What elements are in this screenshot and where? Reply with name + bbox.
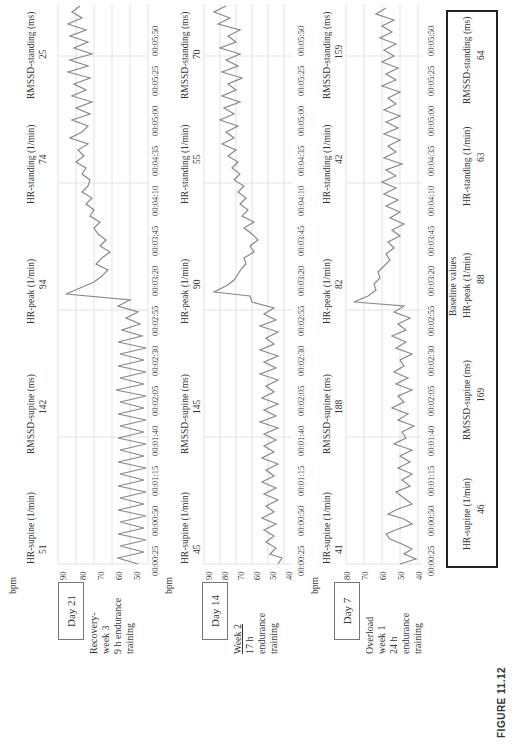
- metric-value: 142: [38, 400, 48, 414]
- x-tick: 00:02:55: [426, 306, 436, 336]
- metric-value: 46: [476, 505, 486, 515]
- y-tick: 70: [236, 572, 246, 581]
- x-tick: 00:00:25: [296, 546, 306, 576]
- x-tick: 00:03:20: [296, 266, 306, 296]
- metric-value: 64: [476, 51, 486, 61]
- y-unit-label: bpm: [8, 577, 18, 594]
- day-label: Day 7: [334, 582, 360, 640]
- y-tick: 70: [360, 572, 370, 581]
- metric-label: RMSSD-standing (ms): [26, 12, 36, 99]
- x-tick: 00:03:20: [426, 266, 436, 296]
- training-description: Week 2 17 h endurance training: [232, 613, 280, 654]
- x-tick: 00:01:15: [296, 466, 306, 496]
- metric-value: 55: [192, 155, 202, 165]
- hr-trace-day7: [346, 4, 422, 564]
- metric-value: 188: [334, 400, 344, 414]
- training-description: Recovery- week 3 9 h endurance training: [88, 598, 136, 654]
- x-tick: 00:00:50: [150, 506, 160, 536]
- x-tick: 00:02:30: [150, 346, 160, 376]
- baseline-title: Baseline values: [448, 257, 458, 316]
- x-tick: 00:01:40: [296, 426, 306, 456]
- metric-label: HR-standing (1/min): [462, 127, 472, 206]
- y-tick: 90: [58, 572, 68, 581]
- x-tick: 00:03:45: [296, 226, 306, 256]
- x-tick: 00:00:50: [426, 506, 436, 536]
- panel-day7: bpm Day 7 Overload week 1 24 h endurance…: [310, 0, 440, 754]
- metric-value: 94: [38, 280, 48, 290]
- x-tick: 00:01:40: [150, 426, 160, 456]
- x-tick: 00:02:05: [426, 386, 436, 416]
- x-tick: 00:05:25: [296, 66, 306, 96]
- x-tick: 00:04:35: [426, 146, 436, 176]
- y-tick: 80: [78, 572, 88, 581]
- x-tick: 00:04:10: [296, 186, 306, 216]
- x-tick: 00:04:10: [150, 186, 160, 216]
- x-tick: 00:04:10: [426, 186, 436, 216]
- metric-label: HR-standing (1/min): [180, 125, 190, 204]
- metric-value: 25: [38, 50, 48, 60]
- y-tick: 40: [414, 572, 424, 581]
- y-tick: 80: [220, 572, 230, 581]
- x-tick: 00:01:15: [150, 466, 160, 496]
- metric-value: 45: [192, 545, 202, 555]
- metric-value: 145: [192, 400, 202, 414]
- y-tick: 60: [252, 572, 262, 581]
- metric-label: HR-supine (1/min): [462, 478, 472, 550]
- x-tick: 00:02:30: [296, 346, 306, 376]
- y-tick: 50: [132, 572, 142, 581]
- x-tick: 00:05:00: [296, 106, 306, 136]
- metric-value: 82: [334, 280, 344, 290]
- y-unit-label: bpm: [310, 577, 320, 594]
- x-tick: 00:02:30: [426, 346, 436, 376]
- y-tick: 70: [96, 572, 106, 581]
- metric-label: RMSSD-supine (ms): [26, 374, 36, 454]
- panel-day14: bpm Day 14 Week 2 17 h endurance trainin…: [160, 0, 310, 754]
- x-tick: 00:04:35: [296, 146, 306, 176]
- metric-label: HR-peak (1/min): [462, 253, 472, 318]
- x-tick: 00:05:50: [296, 26, 306, 56]
- x-tick: 00:00:25: [150, 546, 160, 576]
- figure-label: FIGURE 11.12: [496, 667, 507, 738]
- metric-label: HR-supine (1/min): [26, 492, 36, 564]
- metric-value: 90: [192, 280, 202, 290]
- x-tick: 00:02:05: [296, 386, 306, 416]
- hr-trace-day14: [204, 4, 292, 564]
- metric-label: HR-supine (1/min): [180, 492, 190, 564]
- x-tick: 00:02:05: [150, 386, 160, 416]
- metric-label: HR-peak (1/min): [26, 259, 36, 324]
- metric-label: RMSSD-standing (ms): [322, 12, 332, 99]
- metric-label: HR-peak (1/min): [322, 259, 332, 324]
- y-tick: 40: [284, 572, 294, 581]
- metric-label: HR-standing (1/min): [322, 125, 332, 204]
- metric-label: RMSSD-supine (ms): [180, 374, 190, 454]
- metric-label: HR-peak (1/min): [180, 259, 190, 324]
- metric-value: 63: [476, 153, 486, 163]
- x-tick: 00:04:35: [150, 146, 160, 176]
- x-tick: 00:00:25: [426, 546, 436, 576]
- y-tick: 50: [396, 572, 406, 581]
- metric-label: RMSSD-supine (ms): [322, 374, 332, 454]
- x-tick: 00:05:00: [150, 106, 160, 136]
- training-description: Overload week 1 24 h endurance training: [364, 613, 424, 654]
- panel-day21: bpm Day 21 Recovery- week 3 9 h enduranc…: [0, 0, 160, 754]
- x-tick: 00:01:15: [426, 466, 436, 496]
- x-tick: 00:05:00: [426, 106, 436, 136]
- metric-label: RMSSD-standing (ms): [462, 17, 472, 104]
- metric-label: HR-standing (1/min): [26, 125, 36, 204]
- figure-canvas: bpm Day 21 Recovery- week 3 9 h enduranc…: [0, 0, 514, 754]
- x-tick: 00:05:50: [150, 26, 160, 56]
- day-label: Day 21: [58, 582, 84, 640]
- metric-value: 74: [38, 155, 48, 165]
- x-tick: 00:02:55: [150, 306, 160, 336]
- y-tick: 60: [378, 572, 388, 581]
- x-tick: 00:02:55: [296, 306, 306, 336]
- x-tick: 00:05:25: [426, 66, 436, 96]
- x-tick: 00:03:20: [150, 266, 160, 296]
- day-label: Day 14: [202, 582, 228, 640]
- metric-value: 42: [334, 155, 344, 165]
- x-tick: 00:01:40: [426, 426, 436, 456]
- x-tick: 00:00:50: [296, 506, 306, 536]
- y-unit-label: bpm: [164, 577, 174, 594]
- y-tick: 60: [114, 572, 124, 581]
- y-tick: 50: [268, 572, 278, 581]
